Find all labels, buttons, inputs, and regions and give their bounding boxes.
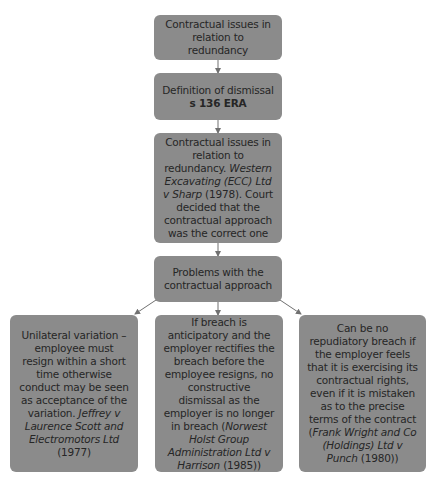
node-text: Unilateral variation – employee must res… (19, 329, 128, 419)
node-anticipatory-breach: If breach is anticipatory and the employ… (155, 315, 283, 472)
node-text: Can be no repudiatory breach if the empl… (307, 322, 418, 438)
node-text: (1985)) (220, 459, 261, 471)
arrow-n4-left (135, 300, 156, 314)
node-problems-contractual-approach: Problems with the contractual approach (154, 256, 282, 302)
arrow-n4-right (280, 300, 301, 314)
node-text: Contractual issues in relation to redund… (162, 18, 274, 57)
node-text: If breach is anticipatory and the employ… (163, 316, 274, 432)
statute-reference: s 136 ERA (189, 97, 246, 109)
node-text: (1980)) (358, 452, 399, 464)
node-definition-of-dismissal: Definition of dismissal s 136 ERA (154, 73, 282, 120)
node-western-excavating: Contractual issues in relation to redund… (154, 133, 282, 243)
node-contractual-issues: Contractual issues in relation to redund… (154, 15, 282, 60)
node-text: Problems with the contractual approach (162, 266, 274, 292)
node-text: (1977) (57, 446, 91, 458)
node-unilateral-variation: Unilateral variation – employee must res… (10, 315, 138, 472)
node-text: Definition of dismissal (162, 84, 274, 96)
node-no-repudiatory-breach: Can be no repudiatory breach if the empl… (299, 315, 426, 472)
